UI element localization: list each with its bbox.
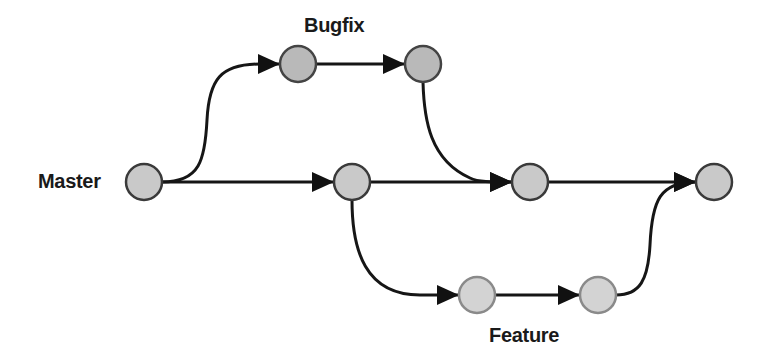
edge-merge-feature	[616, 182, 696, 295]
nodes	[126, 46, 732, 313]
commit-node-bugfix-0	[280, 46, 316, 82]
commit-node-master-0	[126, 164, 162, 200]
branch-label-bugfix: Bugfix	[304, 14, 364, 37]
edge-branch-feature	[352, 200, 459, 295]
edge-branch-bugfix	[162, 64, 280, 182]
branch-label-master: Master	[38, 170, 101, 193]
git-branch-diagram	[0, 0, 769, 362]
commit-node-master-1	[334, 164, 370, 200]
commit-node-bugfix-1	[405, 46, 441, 82]
edge-merge-bugfix	[423, 82, 512, 182]
commit-node-master-3	[696, 164, 732, 200]
commit-node-feature-1	[580, 277, 616, 313]
commit-node-feature-0	[459, 277, 495, 313]
branch-label-feature: Feature	[489, 324, 559, 347]
commit-node-master-2	[512, 164, 548, 200]
edges	[162, 64, 696, 295]
